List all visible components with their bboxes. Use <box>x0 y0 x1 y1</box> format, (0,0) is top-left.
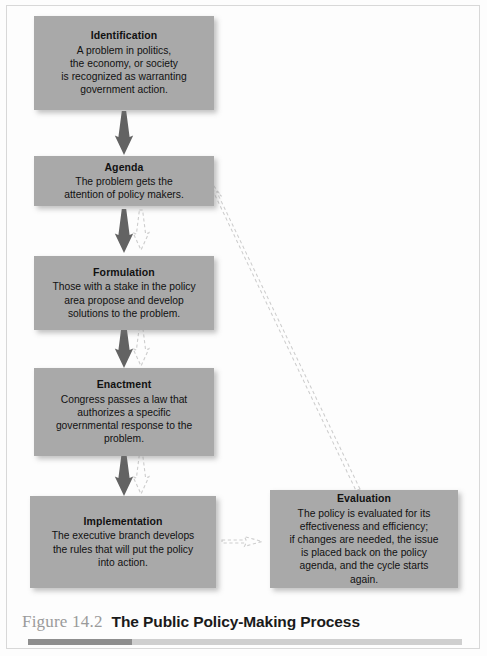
policy-process-diagram: Identification A problem in politics, th… <box>0 0 487 600</box>
stage-box-enactment: Enactment Congress passes a law that aut… <box>34 368 214 456</box>
stage-body-formulation: Those with a stake in the policy area pr… <box>52 280 195 320</box>
arrow-formulation-to-enactment <box>115 324 133 368</box>
stage-box-agenda: Agenda The problem gets the attention of… <box>34 156 214 206</box>
caption-rule <box>28 639 462 645</box>
stage-body-agenda: The problem gets the attention of policy… <box>64 175 184 201</box>
caption-rule-accent <box>28 639 132 645</box>
arrow-formulation-feedback <box>133 326 149 366</box>
arrow-agenda-feedback <box>133 210 149 250</box>
arrow-identification-to-agenda <box>115 111 133 155</box>
stage-title-evaluation: Evaluation <box>337 492 391 505</box>
stage-body-evaluation: The policy is evaluated for its effectiv… <box>290 507 439 586</box>
figure-number: Figure 14.2 <box>22 612 103 632</box>
stage-title-agenda: Agenda <box>104 161 143 174</box>
stage-box-evaluation: Evaluation The policy is evaluated for i… <box>270 490 458 588</box>
stage-body-enactment: Congress passes a law that authorizes a … <box>56 393 192 446</box>
stage-box-identification: Identification A problem in politics, th… <box>34 16 214 110</box>
arrow-enactment-feedback <box>133 454 149 494</box>
stage-title-formulation: Formulation <box>93 266 155 279</box>
stage-title-enactment: Enactment <box>97 378 152 391</box>
stage-title-implementation: Implementation <box>84 515 163 528</box>
arrow-enactment-to-implementation <box>115 452 133 496</box>
stage-box-implementation: Implementation The executive branch deve… <box>30 496 216 588</box>
arrow-evaluation-to-agenda <box>213 187 360 491</box>
figure-title: The Public Policy-Making Process <box>112 613 360 631</box>
stage-body-identification: A problem in politics, the economy, or s… <box>61 44 186 97</box>
arrow-agenda-to-formulation <box>115 209 133 253</box>
stage-title-identification: Identification <box>91 29 158 42</box>
stage-box-formulation: Formulation Those with a stake in the po… <box>34 256 214 330</box>
figure-caption: Figure 14.2 The Public Policy-Making Pro… <box>22 612 462 632</box>
figure-page: Identification A problem in politics, th… <box>0 0 487 656</box>
stage-body-implementation: The executive branch develops the rules … <box>52 529 195 569</box>
arrow-implementation-to-evaluation <box>222 537 262 547</box>
